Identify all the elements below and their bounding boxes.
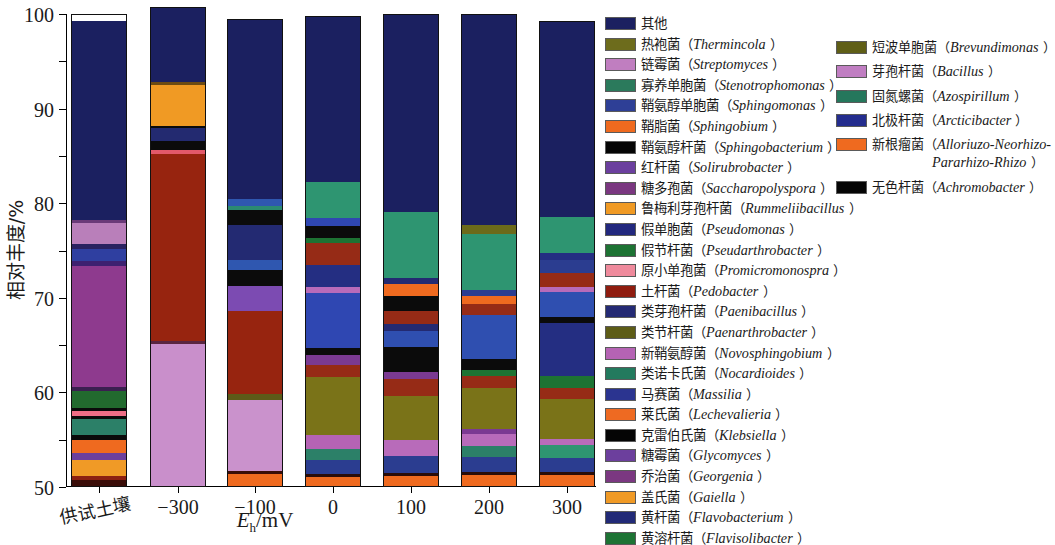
y-tick-label: 90 xyxy=(34,100,54,120)
legend-item[interactable]: 糖霉菌（Glycomyces ） xyxy=(605,446,855,467)
legend-item[interactable]: 黄溶杆菌（Flavisolibacter ） xyxy=(605,529,855,545)
legend-swatch xyxy=(605,182,636,195)
bar-segment xyxy=(306,355,360,365)
y-tick: 10 xyxy=(59,440,66,441)
legend-swatch xyxy=(605,58,636,71)
legend-swatch xyxy=(836,181,867,194)
bar-segment xyxy=(72,419,126,435)
legend-item[interactable]: 黄杆菌（Flavobacterium ） xyxy=(605,508,855,529)
bar-segment xyxy=(228,19,282,200)
bar-3 xyxy=(227,19,283,487)
legend-item[interactable]: 链霉菌（Streptomyces ） xyxy=(605,55,855,76)
y-tick-label: 50 xyxy=(34,478,54,498)
legend-item[interactable]: 鞘氨醇杆菌（Sphingobacterium ） xyxy=(605,138,855,159)
legend-swatch xyxy=(605,202,636,215)
legend-item[interactable]: 寡养单胞菌（Stenotrophomonas ） xyxy=(605,76,855,97)
legend-item[interactable]: 其他 xyxy=(605,14,855,35)
bar-segment xyxy=(228,270,282,286)
y-tick: 40 xyxy=(59,298,66,299)
legend-item[interactable]: 类诺卡氏菌（Nocardioides ） xyxy=(605,364,855,385)
bar-4 xyxy=(305,16,361,487)
legend-label: 假单胞菌（Pseudomonas ） xyxy=(641,220,802,239)
legend-item[interactable]: 莱氏菌（Lechevalieria ） xyxy=(605,405,855,426)
bar-segment xyxy=(462,359,516,370)
legend-item[interactable]: 固氮螺菌（Azospirillum ） xyxy=(836,87,1055,111)
x-tick xyxy=(411,487,412,493)
legend-label: 固氮螺菌（Azospirillum ） xyxy=(872,87,1027,106)
bar-segment xyxy=(72,480,126,486)
y-tick: 30 xyxy=(59,345,66,346)
plot-area: 相对丰度/% 0102030405060708090100 供试土壤−300−1… xyxy=(66,14,596,487)
legend-item[interactable]: 鞘脂菌（Sphingobium ） xyxy=(605,117,855,138)
legend-label: 土杆菌（Pedobacter ） xyxy=(641,282,776,301)
legend-item[interactable]: 芽孢杆菌（Bacillus ） xyxy=(836,62,1055,86)
y-tick: 50 xyxy=(59,251,66,252)
legend-item[interactable]: 克雷伯氏菌（Klebsiella ） xyxy=(605,426,855,447)
bar-segment xyxy=(151,85,205,126)
bar-segment xyxy=(384,311,438,324)
legend-item[interactable]: 乔治菌（Georgenia ） xyxy=(605,467,855,488)
legend-item[interactable]: 短波单胞菌（Brevundimonas ） xyxy=(836,38,1055,62)
legend-swatch xyxy=(605,491,636,504)
bar-segment xyxy=(462,315,516,359)
legend-item[interactable]: 类节杆菌（Paenarthrobacter ） xyxy=(605,323,855,344)
bar-segment xyxy=(384,14,438,212)
bar-segment xyxy=(384,212,438,279)
legend-item[interactable]: 新鞘氨醇菌（Novosphingobium ） xyxy=(605,344,855,365)
bar-segment xyxy=(540,253,594,261)
x-tick-label: 供试土壤 xyxy=(57,489,133,529)
legend-item[interactable]: 盖氏菌（Gaiella ） xyxy=(605,488,855,509)
bar-segment xyxy=(72,249,126,261)
legend-item[interactable]: 假单胞菌（Pseudomonas ） xyxy=(605,220,855,241)
x-tick-label: 100 xyxy=(396,496,426,519)
bar-segment xyxy=(72,460,126,476)
x-tick xyxy=(567,487,568,493)
legend-item[interactable]: 新根瘤菌（Alloriuzo-Neorhizo-Pararhizo-Rhizo … xyxy=(836,135,1055,178)
bar-segment xyxy=(384,347,438,373)
legend-item[interactable]: 土杆菌（Pedobacter ） xyxy=(605,282,855,303)
bar-segment xyxy=(384,379,438,396)
legend-label: 短波单胞菌（Brevundimonas ） xyxy=(872,38,1055,57)
y-tick: 60 xyxy=(59,203,66,204)
legend-item[interactable]: 热袍菌（Thermincola ） xyxy=(605,35,855,56)
y-tick: 70 xyxy=(59,156,66,157)
bar-segment xyxy=(228,311,282,394)
bar-segment xyxy=(384,296,438,310)
bar-segment xyxy=(462,225,516,234)
legend-item[interactable]: 鞘氨醇单胞菌（Sphingomonas ） xyxy=(605,96,855,117)
bar-segment xyxy=(228,210,282,225)
legend-item[interactable]: 无色杆菌（Achromobacter ） xyxy=(836,178,1055,202)
legend-item[interactable]: 糖多孢菌（Saccharopolyspora ） xyxy=(605,179,855,200)
x-axis-unit: /mV xyxy=(256,508,293,532)
legend-item[interactable]: 红杆菌（Solirubrobacter ） xyxy=(605,158,855,179)
legend-item[interactable]: 北极杆菌（Arcticibacter ） xyxy=(836,111,1055,135)
legend-item[interactable]: 类芽孢杆菌（Paenibacillus ） xyxy=(605,302,855,323)
legend-swatch xyxy=(605,244,636,257)
legend-swatch xyxy=(605,429,636,442)
x-tick xyxy=(333,487,334,493)
legend-label: 鞘脂菌（Sphingobium ） xyxy=(641,117,785,136)
bar-segment xyxy=(306,377,360,435)
bar-segment xyxy=(384,476,438,486)
legend-label: 类诺卡氏菌（Nocardioides ） xyxy=(641,364,812,383)
bar-segment xyxy=(72,266,126,387)
legend-label: 糖霉菌（Glycomyces ） xyxy=(641,446,779,465)
x-axis-symbol: E xyxy=(237,508,250,532)
y-tick-label: 100 xyxy=(24,5,54,25)
bar-segment xyxy=(462,446,516,457)
legend-item[interactable]: 鲁梅利芽孢杆菌（Rummeliibacillus ） xyxy=(605,199,855,220)
bar-segment xyxy=(72,453,126,460)
bar-segment xyxy=(151,154,205,341)
legend-label: 北极杆菌（Arcticibacter ） xyxy=(872,111,1029,130)
legend-swatch xyxy=(605,388,636,401)
bar-segment xyxy=(306,460,360,474)
legend-swatch xyxy=(605,161,636,174)
legend-swatch xyxy=(605,532,636,545)
bar-segment xyxy=(540,292,594,318)
bar-segment xyxy=(540,323,594,376)
legend-item[interactable]: 原小单孢菌（Promicromonospra ） xyxy=(605,261,855,282)
bar-segment xyxy=(540,475,594,486)
legend-label: 无色杆菌（Achromobacter ） xyxy=(872,178,1042,197)
legend-item[interactable]: 马赛菌（Massilia ） xyxy=(605,385,855,406)
legend-item[interactable]: 假节杆菌（Pseudarthrobacter ） xyxy=(605,241,855,262)
